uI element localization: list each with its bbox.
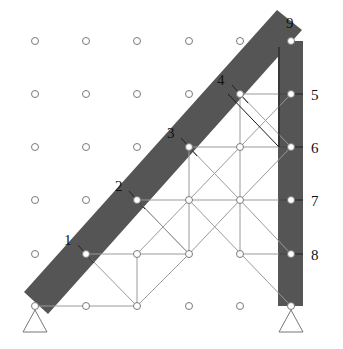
grid-node (134, 144, 141, 151)
vertical-column (278, 41, 303, 306)
grid-node (237, 251, 244, 258)
diagonal-beam (24, 10, 302, 314)
node-label-4: 4 (217, 72, 225, 88)
node-label-2: 2 (115, 178, 123, 194)
grid-node (32, 91, 39, 98)
grid-node (237, 38, 244, 45)
truss-diagram: 123495678 (0, 0, 343, 349)
grid-node (83, 38, 90, 45)
grid-node (32, 197, 39, 204)
member-node-2 (134, 197, 141, 204)
member-node-7 (288, 197, 295, 204)
grid-node (186, 38, 193, 45)
grid-node (134, 303, 141, 310)
node-label-1: 1 (64, 232, 72, 248)
truss-edge (86, 254, 137, 306)
grid-node (134, 251, 141, 258)
member-node-9 (288, 38, 295, 45)
grid-node (134, 38, 141, 45)
member-node-5 (288, 91, 295, 98)
member-node-1 (83, 251, 90, 258)
grid-node (32, 144, 39, 151)
member-node-6 (288, 144, 295, 151)
member-node-8 (288, 251, 295, 258)
truss-edge (137, 254, 189, 306)
node-label-6: 6 (311, 140, 319, 156)
member-node-3 (186, 144, 193, 151)
grid-node (32, 38, 39, 45)
node-label-3: 3 (167, 125, 175, 141)
node-label-5: 5 (311, 87, 319, 103)
support-node (32, 303, 39, 310)
grid-node (237, 197, 244, 204)
structural-members (24, 10, 303, 314)
grid-node (83, 144, 90, 151)
grid-node (237, 144, 244, 151)
supports (23, 310, 303, 332)
grid-node (237, 303, 244, 310)
right-pin-support-icon (279, 310, 303, 332)
node-label-7: 7 (311, 193, 319, 209)
left-pin-support-icon (23, 310, 47, 332)
node-label-9: 9 (286, 15, 294, 31)
grid-node (83, 91, 90, 98)
grid-node (134, 91, 141, 98)
grid-node (32, 251, 39, 258)
grid-node (186, 197, 193, 204)
grid-node (186, 303, 193, 310)
node-label-8: 8 (311, 247, 319, 263)
grid-node (83, 303, 90, 310)
diagram-canvas: 123495678 (0, 0, 343, 349)
grid-node (83, 197, 90, 204)
member-edge-line (228, 94, 279, 147)
grid-node (186, 251, 193, 258)
grid-node (186, 91, 193, 98)
support-node (288, 303, 295, 310)
member-node-4 (237, 91, 244, 98)
